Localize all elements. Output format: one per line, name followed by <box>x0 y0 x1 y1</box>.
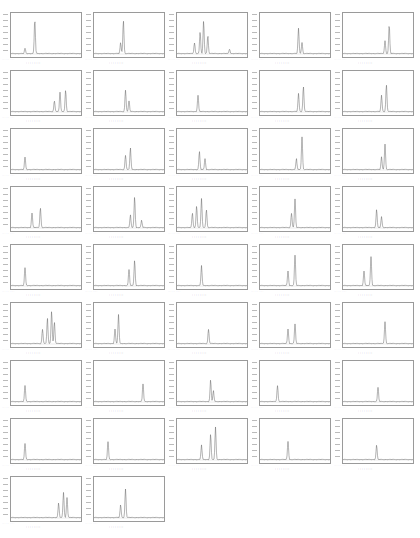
chromatogram-panel: · · · · · · · · · ·· · · · · · · · <box>168 66 248 125</box>
panel-footer-text: · · · · · · · · · · <box>251 464 331 473</box>
chromatogram-panel: · · · · · · · · · ·· · · · · · · · <box>2 356 82 415</box>
chromatogram-trace <box>343 129 413 173</box>
panel-sample-name: · · · · · · · · <box>275 235 289 239</box>
chromatogram-trace <box>177 361 247 405</box>
plot-area <box>93 128 165 174</box>
y-axis-labels <box>251 420 258 460</box>
chromatogram-panel: · · · · · · · · · ·· · · · · · · · <box>251 124 331 183</box>
chromatogram-trace <box>11 419 81 463</box>
panel-sample-name: · · · · · · · · <box>358 119 372 123</box>
panel-sample-name: · · · · · · · · <box>109 177 123 181</box>
chromatogram-trace <box>177 129 247 173</box>
plot-area <box>176 244 248 290</box>
plot-area <box>10 418 82 464</box>
y-axis-labels <box>168 72 175 112</box>
plot-area <box>342 244 414 290</box>
plot-area <box>93 70 165 116</box>
plot-area <box>259 418 331 464</box>
y-axis-labels <box>251 304 258 344</box>
plot-area <box>342 418 414 464</box>
y-axis-labels <box>2 246 9 286</box>
chromatogram-panel: · · · · · · · · · ·· · · · · · · · <box>85 66 165 125</box>
y-axis-labels <box>85 478 92 518</box>
plot-area <box>259 128 331 174</box>
chromatogram-trace <box>177 71 247 115</box>
plot-area <box>176 418 248 464</box>
y-axis-labels <box>168 304 175 344</box>
plot-area <box>176 186 248 232</box>
chromatogram-trace <box>260 187 330 231</box>
panel-sample-name: · · · · · · · · <box>26 351 40 355</box>
chromatogram-trace <box>177 245 247 289</box>
y-axis-labels <box>2 188 9 228</box>
chromatogram-trace <box>260 129 330 173</box>
panel-sample-name: · · · · · · · · <box>109 525 123 529</box>
panel-sample-name: · · · · · · · · <box>358 351 372 355</box>
y-axis-labels <box>2 130 9 170</box>
plot-area <box>259 360 331 406</box>
chromatogram-trace <box>94 361 164 405</box>
chromatogram-trace <box>11 187 81 231</box>
y-axis-labels <box>2 420 9 460</box>
y-axis-labels <box>85 188 92 228</box>
chromatogram-panel: · · · · · · · · · ·· · · · · · · · <box>251 298 331 357</box>
plot-area <box>10 244 82 290</box>
y-axis-labels <box>2 478 9 518</box>
chromatogram-trace <box>11 71 81 115</box>
y-axis-labels <box>251 130 258 170</box>
chromatogram-panel: · · · · · · · · · ·· · · · · · · · <box>2 124 82 183</box>
chromatogram-trace <box>94 129 164 173</box>
panel-sample-name: · · · · · · · · <box>26 409 40 413</box>
chromatogram-trace <box>343 71 413 115</box>
panel-sample-name: · · · · · · · · <box>109 409 123 413</box>
panel-sample-name: · · · · · · · · <box>109 351 123 355</box>
panel-sample-name: · · · · · · · · <box>192 119 206 123</box>
plot-area <box>259 302 331 348</box>
y-axis-labels <box>168 14 175 54</box>
plot-area <box>10 476 82 522</box>
panel-sample-name: · · · · · · · · <box>192 351 206 355</box>
y-axis-labels <box>168 246 175 286</box>
plot-area <box>342 70 414 116</box>
panel-sample-name: · · · · · · · · <box>192 467 206 471</box>
panel-sample-name: · · · · · · · · <box>275 119 289 123</box>
plot-area <box>176 128 248 174</box>
plot-area <box>342 360 414 406</box>
panel-sample-name: · · · · · · · · <box>26 235 40 239</box>
y-axis-labels <box>85 420 92 460</box>
chromatogram-trace <box>11 13 81 57</box>
chromatogram-trace <box>11 477 81 521</box>
chromatogram-panel: · · · · · · · · · ·· · · · · · · · <box>85 8 165 67</box>
panel-sample-name: · · · · · · · · <box>26 61 40 65</box>
panel-sample-name: · · · · · · · · <box>192 409 206 413</box>
panel-sample-name: · · · · · · · · <box>358 409 372 413</box>
chromatogram-trace <box>94 71 164 115</box>
chromatogram-panel: · · · · · · · · · ·· · · · · · · · <box>168 414 248 473</box>
plot-area <box>93 244 165 290</box>
chromatogram-trace <box>11 361 81 405</box>
chromatogram-panel: · · · · · · · · · ·· · · · · · · · <box>251 356 331 415</box>
panel-sample-name: · · · · · · · · <box>358 61 372 65</box>
y-axis-labels <box>2 362 9 402</box>
chromatogram-trace <box>343 245 413 289</box>
plot-area <box>259 70 331 116</box>
chromatogram-trace <box>94 187 164 231</box>
panel-sample-name: · · · · · · · · <box>109 235 123 239</box>
chromatogram-panel: · · · · · · · · · ·· · · · · · · · <box>2 298 82 357</box>
chromatogram-trace <box>260 245 330 289</box>
y-axis-labels <box>334 72 341 112</box>
plot-area <box>10 360 82 406</box>
panel-footer-text: · · · · · · · · · · <box>2 522 82 531</box>
plot-area <box>342 302 414 348</box>
panel-sample-name: · · · · · · · · <box>275 177 289 181</box>
chromatogram-panel: · · · · · · · · · ·· · · · · · · · <box>2 472 82 531</box>
chromatogram-panel: · · · · · · · · · ·· · · · · · · · <box>251 240 331 299</box>
chromatogram-panel: · · · · · · · · · ·· · · · · · · · <box>85 124 165 183</box>
chromatogram-panel: · · · · · · · · · ·· · · · · · · · <box>251 8 331 67</box>
y-axis-labels <box>251 246 258 286</box>
chromatogram-panel: · · · · · · · · · ·· · · · · · · · <box>85 414 165 473</box>
panel-sample-name: · · · · · · · · <box>26 177 40 181</box>
panel-sample-name: · · · · · · · · <box>26 467 40 471</box>
panel-sample-name: · · · · · · · · <box>275 409 289 413</box>
chromatogram-trace <box>177 13 247 57</box>
